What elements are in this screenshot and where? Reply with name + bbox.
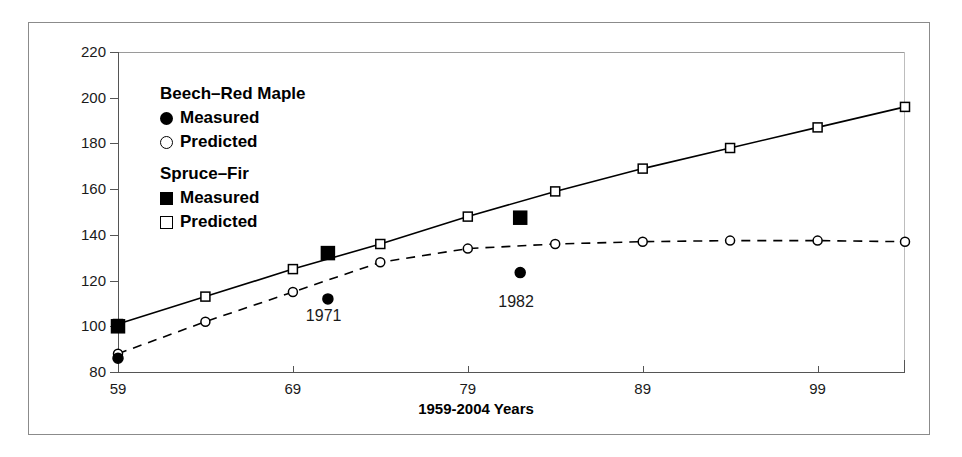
series-marker-circle (323, 294, 333, 304)
series-marker-circle (463, 244, 472, 253)
series-marker-circle (638, 237, 647, 246)
series-marker-circle (113, 353, 123, 363)
series-marker-square (201, 292, 210, 301)
series-marker-square (551, 187, 560, 196)
series-marker-circle (901, 237, 910, 246)
series-marker-circle (376, 258, 385, 267)
series-marker-circle (288, 288, 297, 297)
series-marker-square (726, 144, 735, 153)
series-marker-circle (551, 240, 560, 249)
series-marker-square (112, 320, 125, 333)
series-marker-circle (515, 268, 525, 278)
x-axis-title-text: 1959-2004 Years (418, 400, 534, 417)
data-series-layer (0, 0, 962, 457)
series-marker-circle (726, 236, 735, 245)
series-marker-square (901, 102, 910, 111)
series-marker-square (376, 240, 385, 249)
annotation-label: 1982 (498, 293, 534, 311)
series-marker-circle (201, 317, 210, 326)
series-marker-circle (813, 236, 822, 245)
x-axis-title: 1959-2004 Years (0, 400, 962, 417)
annotation-label: 1971 (306, 307, 342, 325)
figure-root: Basal Area ( square feet ) 8010012014016… (0, 0, 962, 457)
series-marker-square (288, 265, 297, 274)
series-line (118, 107, 905, 324)
series-marker-square (638, 164, 647, 173)
series-marker-square (321, 247, 334, 260)
series-marker-square (514, 211, 527, 224)
series-marker-square (813, 123, 822, 132)
series-marker-square (463, 212, 472, 221)
